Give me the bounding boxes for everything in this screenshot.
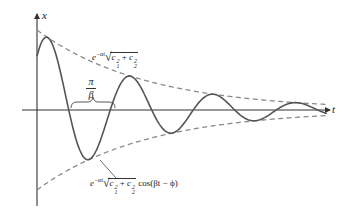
x-axis-label: x	[42, 10, 47, 21]
solution-label: e−αt√c21 + c22 cos(βt − ϕ)	[90, 176, 178, 195]
t-axis-label: t	[332, 104, 335, 115]
damped-oscillation-figure: x t e−αt√c21 + c22 π β e−αt√c21 + c22 co…	[0, 0, 347, 216]
damped-oscillation-curve	[37, 37, 327, 160]
half-period-label: π β	[86, 77, 96, 100]
upper-envelope-curve	[37, 30, 327, 104]
upper-envelope-label: e−αt√c21 + c22	[92, 50, 138, 69]
